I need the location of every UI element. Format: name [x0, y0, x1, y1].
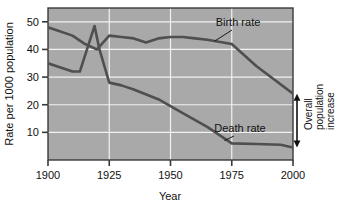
y-tick-label: 10 [27, 126, 39, 138]
chart-figure: 1020304050 19001925195019752000 Rate per… [0, 0, 340, 209]
x-tick-label: 1900 [36, 169, 60, 181]
x-tick-label: 2000 [281, 169, 305, 181]
y-tick-label: 50 [27, 16, 39, 28]
y-tick-label: 30 [27, 71, 39, 83]
death-rate-label: Death rate [214, 122, 265, 134]
birth-rate-label: Birth rate [216, 16, 261, 28]
x-axis-title: Year [159, 190, 182, 202]
overall-increase-label-line3: increase [325, 92, 336, 130]
y-tick-label: 20 [27, 99, 39, 111]
x-tick-label: 1975 [220, 169, 244, 181]
x-tick-label: 1925 [97, 169, 121, 181]
y-tick-label: 40 [27, 43, 39, 55]
y-axis-title: Rate per 1000 population [3, 22, 15, 146]
x-tick-label: 1950 [158, 169, 182, 181]
overall-increase-label-line2: population [314, 84, 325, 130]
overall-increase-label-line1: Overall [303, 98, 314, 130]
line-chart: 1020304050 19001925195019752000 Rate per… [0, 0, 340, 209]
